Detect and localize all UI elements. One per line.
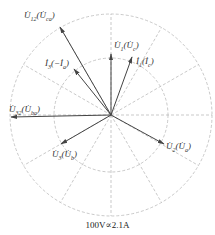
- label-u32: U̇32(U̇ba): [9, 104, 40, 118]
- phasor-u3: [61, 115, 111, 144]
- label-u3: U̇3(U̇b): [52, 149, 77, 163]
- label-u2: U̇2(U̇a): [166, 141, 191, 155]
- radial-grid-line: [111, 65, 198, 116]
- phasor-vectors: [11, 27, 164, 144]
- phasor-i3: [74, 69, 111, 115]
- label-i3: İ3(−İa): [45, 58, 69, 72]
- label-u1: U̇1(U̇c): [114, 40, 139, 54]
- label-i1: İ1(İc): [136, 56, 154, 70]
- label-u12: U̇12(U̇ca): [24, 10, 55, 24]
- radial-grid-line: [111, 115, 162, 202]
- phasor-i1: [111, 57, 132, 115]
- scale-caption: 100V∝2.1A: [0, 220, 215, 230]
